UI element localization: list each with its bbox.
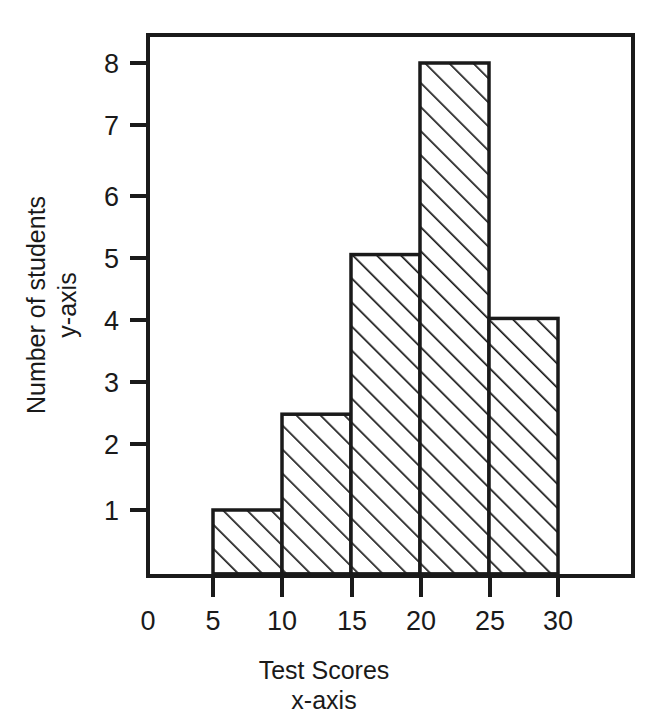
x-tick-label-30: 30 [543, 606, 573, 636]
y-tick-label-1: 1 [104, 496, 119, 526]
y-tick-label-3: 3 [104, 368, 119, 398]
y-axis-tick-labels: 8 7 6 5 4 3 2 1 [104, 49, 119, 526]
x-tick-label-15: 15 [337, 606, 367, 636]
bar-15-20 [351, 255, 420, 574]
x-tick-label-20: 20 [406, 606, 436, 636]
histogram-bars [213, 63, 558, 574]
y-tick-label-7: 7 [104, 111, 119, 141]
y-tick-label-5: 5 [104, 244, 119, 274]
y-tick-label-2: 2 [104, 430, 119, 460]
y-axis-title: Number of students [22, 196, 50, 414]
x-tick-label-0: 0 [140, 606, 155, 636]
x-axis-subtitle: x-axis [291, 686, 356, 713]
x-axis-title: Test Scores [259, 656, 390, 684]
chart-canvas: 8 7 6 5 4 3 2 1 0 5 [0, 0, 647, 713]
bar-20-25 [420, 63, 489, 574]
bar-10-15 [282, 414, 351, 574]
x-tick-label-25: 25 [475, 606, 505, 636]
bar-25-30 [489, 318, 558, 573]
y-tick-label-6: 6 [104, 182, 119, 212]
x-tick-label-10: 10 [267, 606, 297, 636]
y-axis-subtitle: y-axis [53, 272, 81, 337]
x-tick-label-5: 5 [205, 606, 220, 636]
y-tick-label-4: 4 [104, 306, 119, 336]
y-tick-label-8: 8 [104, 49, 119, 79]
histogram-figure: 8 7 6 5 4 3 2 1 0 5 [0, 0, 647, 713]
x-axis-tick-labels: 0 5 10 15 20 25 30 [140, 606, 573, 636]
bar-5-10 [213, 510, 282, 574]
